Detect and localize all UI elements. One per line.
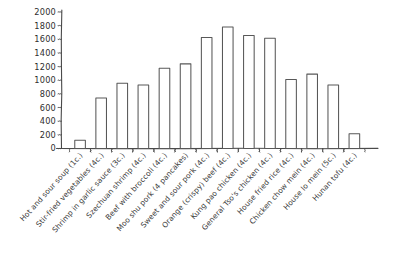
bar-group bbox=[201, 38, 212, 149]
bar-group bbox=[307, 74, 318, 148]
bar bbox=[75, 140, 86, 148]
x-tick-mark bbox=[154, 149, 155, 152]
bar bbox=[222, 27, 233, 148]
bar bbox=[138, 85, 149, 148]
y-tick-label: 1800 bbox=[34, 21, 56, 31]
bar bbox=[265, 38, 276, 148]
bar-group bbox=[265, 38, 276, 148]
bar bbox=[201, 38, 212, 149]
bar-group bbox=[75, 140, 86, 148]
y-tick-label: 1000 bbox=[34, 75, 56, 85]
bar bbox=[286, 80, 297, 149]
y-tick-mark bbox=[58, 94, 61, 95]
bar-group bbox=[96, 98, 107, 149]
chart-canvas: 0200400600800100012001400160018002000Hot… bbox=[0, 0, 393, 261]
y-tick-label: 1600 bbox=[34, 34, 56, 44]
bar bbox=[349, 134, 360, 149]
bar-chart: 0200400600800100012001400160018002000Hot… bbox=[0, 0, 393, 261]
y-tick-label: 1400 bbox=[34, 48, 56, 58]
bar-group bbox=[349, 134, 360, 149]
y-tick-label: 600 bbox=[40, 103, 56, 113]
y-tick-label: 200 bbox=[40, 130, 56, 140]
bar bbox=[180, 64, 191, 149]
bar-group bbox=[222, 27, 233, 148]
y-tick-label: 1200 bbox=[34, 62, 56, 72]
y-tick-label: 800 bbox=[40, 89, 56, 99]
bar bbox=[117, 83, 128, 148]
bar-group bbox=[159, 68, 170, 148]
bar-group bbox=[286, 80, 297, 149]
bar-group bbox=[138, 85, 149, 148]
y-tick-label: 0 bbox=[51, 143, 56, 153]
bar bbox=[96, 98, 107, 149]
y-tick-label: 400 bbox=[40, 116, 56, 126]
bar bbox=[328, 85, 339, 148]
bar bbox=[159, 68, 170, 148]
bar-group bbox=[328, 85, 339, 148]
y-tick-label: 2000 bbox=[34, 7, 56, 17]
bar bbox=[244, 36, 255, 149]
bar bbox=[307, 74, 318, 148]
y-axis-line bbox=[61, 10, 62, 149]
bar-group bbox=[117, 83, 128, 148]
bar-group bbox=[244, 36, 255, 149]
bar-group bbox=[180, 64, 191, 149]
